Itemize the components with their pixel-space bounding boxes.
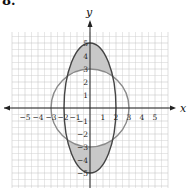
y-tick: 3 (83, 65, 88, 74)
y-tick: −1 (77, 117, 88, 126)
y-tick: 4 (83, 52, 88, 61)
y-axis-label: y (85, 6, 93, 19)
y-tick: 5 (83, 39, 88, 48)
y-tick: 1 (83, 91, 88, 100)
x-tick: 2 (114, 113, 119, 122)
graph: x y −5 −4 −3 −2 −1 1 2 3 4 5 5 4 3 2 1 −… (0, 0, 189, 188)
x-axis-arrow-right-icon (170, 106, 176, 111)
y-tick: −4 (77, 156, 88, 165)
x-tick: 1 (101, 113, 106, 122)
x-axis-arrow-left-icon (4, 106, 10, 111)
y-tick: −2 (77, 130, 88, 139)
x-tick: −5 (19, 113, 30, 122)
x-tick: −4 (32, 113, 43, 122)
x-tick: 5 (153, 113, 158, 122)
x-tick: −3 (45, 113, 56, 122)
x-tick: 4 (140, 113, 145, 122)
x-tick: −2 (57, 113, 68, 122)
y-tick: 2 (83, 78, 88, 87)
x-axis-label: x (180, 102, 187, 115)
y-tick: −5 (77, 169, 88, 178)
y-tick: −3 (77, 143, 88, 152)
y-axis-arrow-up-icon (88, 20, 93, 27)
x-tick: 3 (127, 113, 132, 122)
